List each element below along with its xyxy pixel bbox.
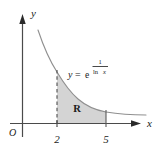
- curve-path: [38, 30, 146, 115]
- y-axis-arrow-icon: [19, 14, 25, 24]
- equation-exponent-numerator: 1: [98, 58, 101, 65]
- figure-canvas: y x O 2 5 R y = e 1 ln x: [0, 0, 161, 147]
- curve-equation-label: y = e 1 ln x: [67, 58, 108, 80]
- equation-base-e: e: [85, 70, 89, 80]
- equation-exponent-denominator-ln: ln: [93, 68, 99, 75]
- equation-equals: =: [75, 69, 81, 80]
- x-axis-label: x: [146, 117, 152, 129]
- equation-exponent-denominator-x: x: [102, 68, 106, 75]
- x-axis-arrow-icon: [131, 120, 141, 126]
- y-axis-label: y: [30, 7, 36, 19]
- shaded-region-R: [57, 72, 106, 123]
- tick-label-x5: 5: [103, 133, 109, 145]
- equation-lhs: y: [67, 69, 73, 80]
- origin-label: O: [9, 127, 16, 138]
- tick-label-x2: 2: [54, 133, 60, 145]
- region-label-R: R: [73, 103, 81, 114]
